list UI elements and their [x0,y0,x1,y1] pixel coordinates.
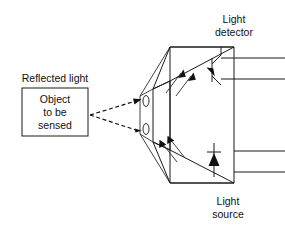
reflected-ray-upper [90,100,139,115]
reflected-light-label: Reflected light [22,72,89,84]
housing-bottom-face [153,142,234,183]
upper-aperture-icon [143,96,149,107]
light-detector-label-line2: detector [215,26,253,38]
light-source-label-line1: Light [217,195,240,207]
figure-root: Light detector Light source Reflected li… [0,0,285,227]
phototransistor-symbol [207,47,222,85]
housing-top-face [153,47,234,89]
reflective-sensor-diagram: Light detector Light source Reflected li… [0,0,285,227]
light-source-label-line2: source [212,208,244,220]
object-label-line1: Object [40,93,70,105]
emitted-ray-arrowhead [135,129,142,133]
object-label-line2: to be [43,106,67,118]
housing-nose-edges [140,47,170,183]
led-symbol [207,143,221,177]
object-label-line3: sensed [38,119,72,131]
housing-back-face [170,47,234,183]
reflected-ray-lower [90,115,139,131]
lower-aperture-icon [143,124,149,135]
emitted-light-arrows [159,136,185,162]
light-detector-label-line1: Light [223,13,246,25]
